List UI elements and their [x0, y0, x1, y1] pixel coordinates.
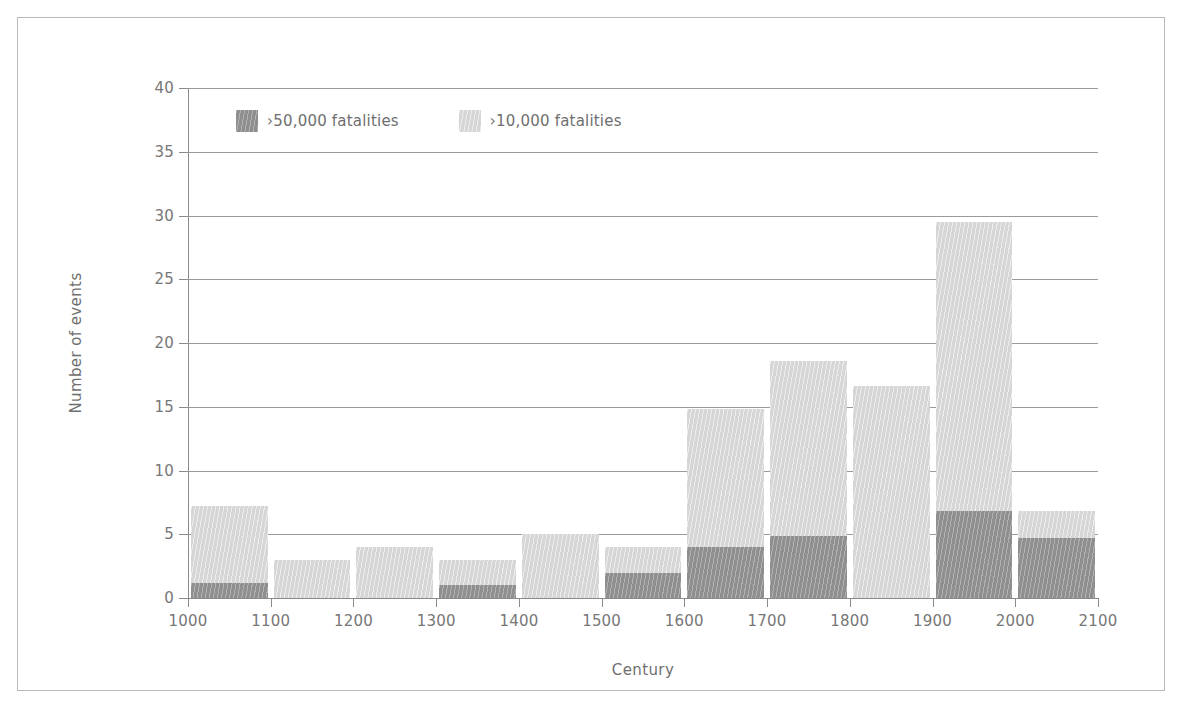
bar-segment-over-50000-1000[interactable] — [191, 583, 268, 598]
x-tick-mark-2000 — [1015, 598, 1016, 607]
x-tick-mark-1100 — [271, 598, 272, 607]
bar-1000[interactable] — [191, 506, 268, 598]
x-tick-label-1500: 1500 — [582, 612, 621, 630]
legend-swatch-light-icon — [459, 110, 481, 132]
x-tick-label-1900: 1900 — [913, 612, 952, 630]
gridline-30 — [188, 216, 1098, 217]
bar-segment-over-10000-2000[interactable] — [1018, 511, 1095, 538]
bar-1800[interactable] — [853, 386, 930, 598]
y-tick-mark-30 — [179, 216, 188, 217]
x-tick-label-1700: 1700 — [748, 612, 787, 630]
bar-segment-over-50000-1300[interactable] — [439, 585, 516, 598]
bar-segment-over-10000-1300[interactable] — [439, 560, 516, 586]
bar-segment-over-10000-1500[interactable] — [605, 547, 682, 573]
x-tick-label-1000: 1000 — [169, 612, 208, 630]
x-tick-label-1600: 1600 — [665, 612, 704, 630]
x-tick-label-1200: 1200 — [334, 612, 373, 630]
gridline-40 — [188, 88, 1098, 89]
figure-frame: Number of events Century 051015202530354… — [17, 17, 1165, 691]
legend-label-over-10000: ›10,000 fatalities — [490, 112, 622, 130]
bar-segment-over-10000-1700[interactable] — [770, 361, 847, 536]
bar-1200[interactable] — [356, 547, 433, 598]
bar-1400[interactable] — [522, 534, 599, 598]
bar-segment-over-10000-1000[interactable] — [191, 506, 268, 583]
bar-segment-over-10000-1100[interactable] — [274, 560, 351, 598]
bar-segment-over-50000-1700[interactable] — [770, 536, 847, 598]
y-tick-mark-20 — [179, 343, 188, 344]
y-tick-label-15: 15 — [155, 398, 175, 416]
x-tick-mark-1200 — [353, 598, 354, 607]
bar-1900[interactable] — [936, 222, 1013, 598]
x-tick-label-1300: 1300 — [417, 612, 456, 630]
bar-segment-over-50000-1500[interactable] — [605, 573, 682, 599]
y-tick-mark-40 — [179, 88, 188, 89]
x-tick-label-2000: 2000 — [996, 612, 1035, 630]
legend-label-over-50000: ›50,000 fatalities — [267, 112, 399, 130]
bar-segment-over-10000-1200[interactable] — [356, 547, 433, 598]
y-axis-title: Number of events — [67, 272, 85, 413]
y-tick-label-0: 0 — [164, 589, 174, 607]
chart-legend: ›50,000 fatalities ›10,000 fatalities — [236, 110, 622, 132]
x-tick-label-2100: 2100 — [1079, 612, 1118, 630]
bar-segment-over-50000-1600[interactable] — [687, 547, 764, 598]
y-tick-label-5: 5 — [164, 525, 174, 543]
x-tick-label-1400: 1400 — [499, 612, 538, 630]
x-tick-mark-1800 — [850, 598, 851, 607]
legend-item-over-10000[interactable]: ›10,000 fatalities — [459, 110, 622, 132]
y-tick-label-10: 10 — [155, 462, 175, 480]
bar-segment-over-50000-1900[interactable] — [936, 511, 1013, 598]
x-axis-title: Century — [612, 661, 674, 679]
x-tick-mark-1000 — [188, 598, 189, 607]
y-tick-label-25: 25 — [155, 270, 175, 288]
x-tick-mark-1400 — [519, 598, 520, 607]
plot-area: 0510152025303540 10001100120013001400150… — [188, 88, 1098, 598]
gridline-0 — [188, 598, 1098, 599]
bar-1100[interactable] — [274, 560, 351, 598]
x-tick-mark-1600 — [684, 598, 685, 607]
y-tick-mark-35 — [179, 152, 188, 153]
y-tick-mark-15 — [179, 407, 188, 408]
gridline-35 — [188, 152, 1098, 153]
y-tick-mark-0 — [179, 598, 188, 599]
bar-2000[interactable] — [1018, 511, 1095, 598]
x-tick-label-1800: 1800 — [830, 612, 869, 630]
x-tick-mark-1700 — [767, 598, 768, 607]
legend-item-over-50000[interactable]: ›50,000 fatalities — [236, 110, 399, 132]
bar-segment-over-10000-1400[interactable] — [522, 534, 599, 598]
x-tick-mark-2100 — [1098, 598, 1099, 607]
y-tick-mark-5 — [179, 534, 188, 535]
bar-1700[interactable] — [770, 361, 847, 598]
y-tick-label-20: 20 — [155, 334, 175, 352]
bar-1600[interactable] — [687, 409, 764, 598]
bar-segment-over-10000-1600[interactable] — [687, 409, 764, 547]
x-tick-mark-1300 — [436, 598, 437, 607]
bar-segment-over-50000-2000[interactable] — [1018, 538, 1095, 598]
y-tick-mark-25 — [179, 279, 188, 280]
x-tick-mark-1500 — [602, 598, 603, 607]
x-tick-mark-1900 — [933, 598, 934, 607]
bar-1500[interactable] — [605, 547, 682, 598]
x-tick-label-1100: 1100 — [251, 612, 290, 630]
legend-swatch-dark-icon — [236, 110, 258, 132]
y-tick-label-40: 40 — [155, 79, 175, 97]
y-tick-label-35: 35 — [155, 143, 175, 161]
y-tick-mark-10 — [179, 471, 188, 472]
bar-segment-over-10000-1900[interactable] — [936, 222, 1013, 511]
y-tick-label-30: 30 — [155, 207, 175, 225]
bar-segment-over-10000-1800[interactable] — [853, 386, 930, 598]
bar-1300[interactable] — [439, 560, 516, 598]
